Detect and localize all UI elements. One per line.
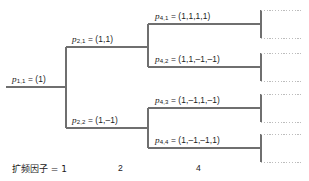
code-value-p42: = (1,1,–1,–1) [168, 54, 219, 64]
code-value-p43: = (1,–1,1,–1) [168, 95, 219, 105]
axis-label-sf-4: 4 [196, 163, 201, 173]
node-label-p41: p4,1 = (1,1,1,1) [155, 11, 210, 23]
node-label-p22: p2,2 = (1,–1) [72, 115, 118, 127]
code-value-p21: = (1,1) [85, 34, 113, 44]
node-label-p11: p1,1 = (1) [12, 74, 46, 86]
node-label-p21: p2,1 = (1,1) [72, 34, 113, 46]
code-value-p44: = (1,–1,–1,1) [168, 135, 219, 145]
node-label-p44: p4,4 = (1,–1,–1,1) [155, 135, 220, 147]
code-tree-diagram: p1,1 = (1) p2,1 = (1,1) p2,2 = (1,–1) p4… [0, 0, 309, 181]
tree-connector-lines [0, 0, 309, 181]
axis-label-sf-2: 2 [118, 163, 123, 173]
code-value-p41: = (1,1,1,1) [168, 11, 210, 21]
node-label-p43: p4,3 = (1,–1,1,–1) [155, 95, 220, 107]
code-value-p22: = (1,–1) [85, 115, 117, 125]
code-value-p11: = (1) [25, 74, 45, 84]
axis-label-sf-1: 扩频因子 = 1 [12, 162, 67, 175]
node-label-p42: p4,2 = (1,1,–1,–1) [155, 54, 220, 66]
